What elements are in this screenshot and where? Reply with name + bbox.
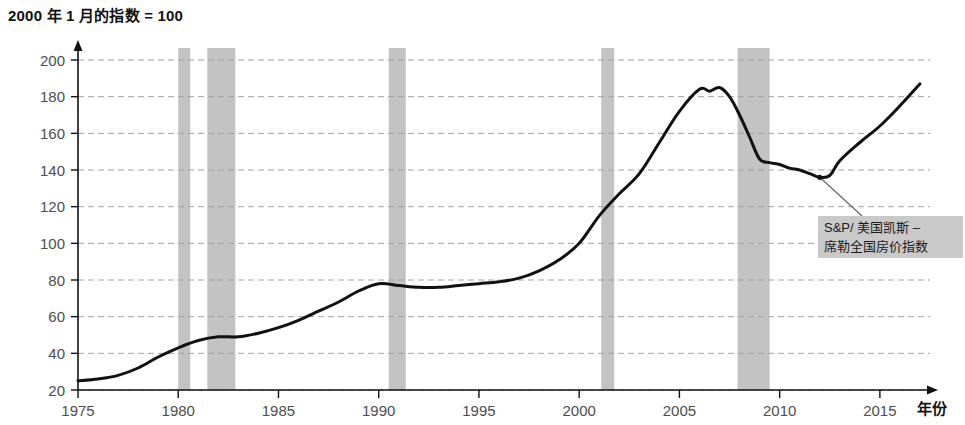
series-annotation: S&P/ 美国凯斯 – 席勒全国房价指数 [817,175,963,258]
annotation-line-2: 席勒全国房价指数 [824,239,928,254]
gridlines-group [78,60,930,390]
y-axis-tick-label: 40 [48,345,65,362]
x-axis-label: 年份 [917,400,948,417]
y-axis-tick-label: 200 [40,52,65,69]
y-axis-tick-label: 120 [40,198,65,215]
y-axis-arrow-icon [74,40,83,51]
y-axis-tick-label: 140 [40,162,65,179]
series-line [78,84,920,381]
x-axis-tick-label: 2005 [663,402,696,419]
y-axis-ticks-group: 20406080100120140160180200 [40,52,78,399]
annotation-leader-line [820,177,862,216]
recession-bands-group [178,48,769,390]
y-axis-tick-label: 80 [48,272,65,289]
x-axis-tick-label: 2010 [763,402,796,419]
y-axis-tick-label: 180 [40,88,65,105]
recession-band [601,48,614,390]
y-axis-tick-label: 100 [40,235,65,252]
annotation-anchor-dot [817,175,822,180]
recession-band [738,48,770,390]
x-axis-tick-label: 1975 [61,402,94,419]
annotation-line-1: S&P/ 美国凯斯 – [824,220,921,235]
recession-band [389,48,406,390]
x-axis-tick-label: 1995 [462,402,495,419]
chart-root: 2000 年 1 月的指数 = 100 20406080100120140160… [0,0,965,425]
x-axis-tick-label: 2000 [562,402,595,419]
y-axis-tick-label: 60 [48,308,65,325]
x-axis-tick-label: 1985 [262,402,295,419]
x-axis-tick-label: 2015 [863,402,896,419]
recession-band [178,48,190,390]
y-axis-tick-label: 160 [40,125,65,142]
chart-canvas: 20406080100120140160180200 1975198019851… [0,0,965,425]
data-series-group [78,84,920,381]
axes-group [74,40,939,395]
x-axis-tick-label: 1980 [162,402,195,419]
x-axis-ticks-group: 197519801985199019952000200520102015 [61,390,896,419]
x-axis-arrow-icon [927,386,938,395]
y-axis-tick-label: 20 [48,382,65,399]
x-axis-tick-label: 1990 [362,402,395,419]
